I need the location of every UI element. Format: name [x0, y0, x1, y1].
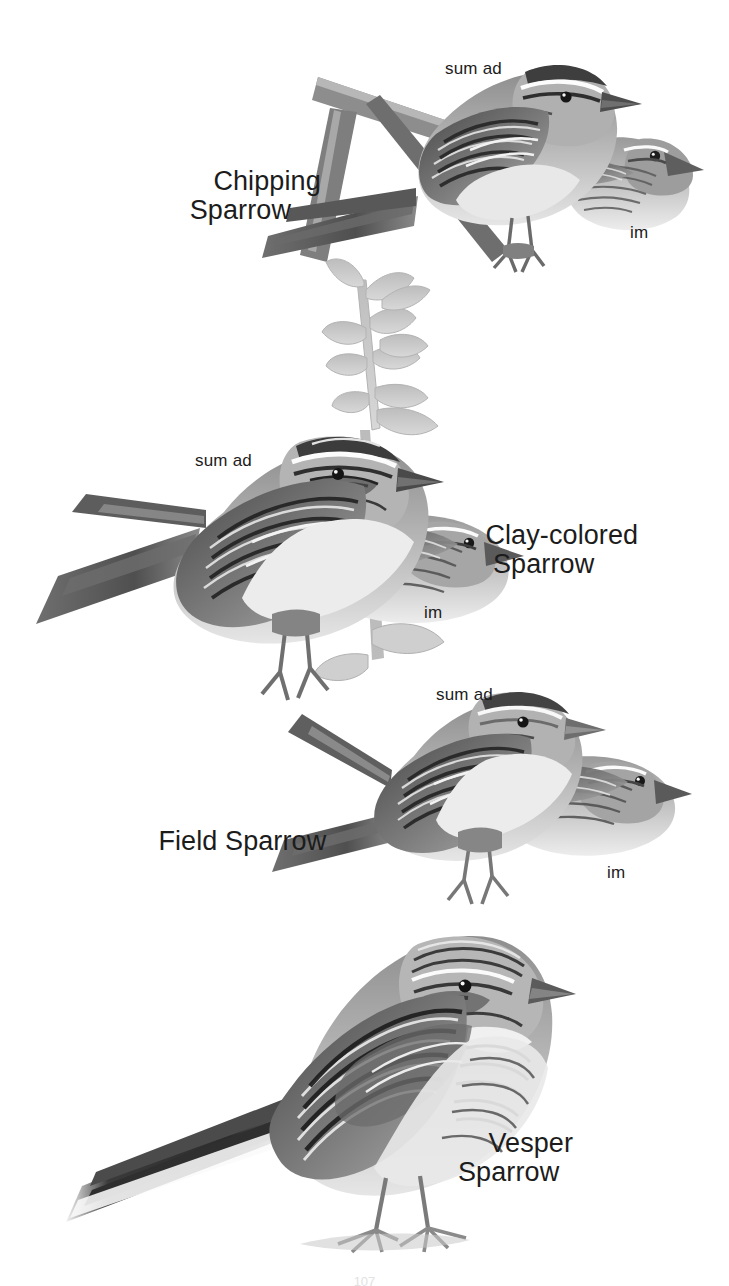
species-name-field-sparrow: Field Sparrow	[128, 798, 348, 885]
species-name-chipping-sparrow: ChippingSparrow	[183, 138, 291, 284]
species-name-clay-colored-sparrow: Clay-coloredSparrow	[455, 492, 655, 638]
species-name-line1: Clay-colored	[485, 520, 638, 550]
clay-colored-sparrow-summer-adult	[36, 437, 444, 700]
species-name-line1: Field Sparrow	[158, 826, 326, 856]
age-label-field-immature: im	[607, 864, 625, 882]
field-guide-plate: ChippingSparrow sum ad im Clay-coloredSp…	[0, 0, 729, 1286]
species-name-line1: Vesper	[488, 1128, 573, 1158]
species-name-line2: Sparrow	[458, 1158, 648, 1187]
clay-colored-sparrow-illustration	[36, 259, 524, 700]
age-label-clay-colored-immature: im	[424, 604, 442, 622]
age-label-chipping-immature: im	[630, 224, 648, 242]
species-name-line2: Sparrow	[183, 196, 291, 225]
perch-branch-chipping	[300, 77, 508, 262]
page-number: 107	[0, 1274, 729, 1286]
chipping-sparrow-immature	[556, 137, 704, 230]
species-name-line1: Chipping	[213, 166, 320, 196]
age-label-field-summer-adult: sum ad	[436, 686, 493, 704]
field-sparrow-immature	[501, 756, 692, 856]
age-label-clay-colored-summer-adult: sum ad	[195, 452, 252, 470]
plant-sprig	[322, 259, 438, 435]
species-name-line2: Sparrow	[455, 550, 655, 579]
plate-artwork	[0, 0, 729, 1286]
age-label-chipping-summer-adult: sum ad	[445, 60, 502, 78]
species-name-vesper-sparrow: VesperSparrow	[458, 1100, 648, 1246]
